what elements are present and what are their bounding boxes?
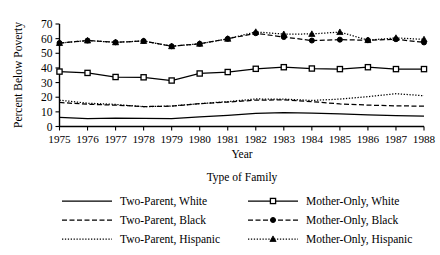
series-marker (365, 65, 370, 70)
data-series-group (56, 29, 427, 119)
y-tick-label: 70 (41, 18, 53, 30)
series-mother-only-white (57, 65, 427, 84)
legend-label: Two-Parent, Black (120, 214, 206, 227)
legend-entry-two-parent-hispanic[interactable]: Two-Parent, Hispanic (62, 233, 220, 246)
series-marker (197, 71, 202, 76)
y-tick-label: 40 (41, 62, 53, 74)
series-marker (57, 69, 62, 74)
y-tick-label: 20 (41, 91, 53, 103)
series-marker (337, 67, 342, 72)
chart-canvas: Percent Below Poverty 010203040506070 19… (0, 0, 440, 255)
x-tick-label: 1986 (357, 133, 380, 145)
series-marker (225, 69, 230, 74)
legend-label: Mother-Only, Hispanic (306, 233, 412, 246)
y-tick-label: 0 (47, 121, 53, 133)
series-marker (169, 78, 174, 83)
x-tick-label: 1977 (104, 133, 127, 145)
y-tick-label: 60 (41, 33, 53, 45)
legend-entry-two-parent-white[interactable]: Two-Parent, White (62, 195, 207, 208)
x-tick-label: 1979 (160, 133, 183, 145)
series-marker (141, 75, 146, 80)
x-tick-labels: 1975197619771978197919801981198219831984… (48, 133, 435, 145)
y-axis-title-text: Percent Below Poverty (12, 22, 25, 128)
legend-entry-mother-only-black[interactable]: Mother-Only, Black (248, 214, 399, 227)
series-marker (113, 74, 118, 79)
x-tick-label: 1981 (217, 133, 239, 145)
legend-marker-sample (271, 218, 276, 223)
series-marker (309, 66, 314, 71)
y-axis-title: Percent Below Poverty (12, 22, 25, 128)
x-tick-label: 1978 (132, 133, 155, 145)
legend-label: Mother-Only, White (306, 195, 399, 208)
y-tick-labels: 010203040506070 (41, 18, 53, 133)
x-tick-label: 1982 (245, 133, 267, 145)
x-tick-label: 1975 (48, 133, 71, 145)
x-tick-label: 1980 (189, 133, 212, 145)
x-tick-label: 1988 (413, 133, 436, 145)
legend: Two-Parent, WhiteMother-Only, WhiteTwo-P… (62, 195, 412, 246)
series-mother-only-hispanic (56, 29, 427, 49)
legend-entry-mother-only-white[interactable]: Mother-Only, White (248, 195, 399, 208)
series-marker (337, 37, 342, 42)
series-marker (281, 65, 286, 70)
legend-entry-mother-only-hispanic[interactable]: Mother-Only, Hispanic (248, 233, 412, 246)
x-axis-title: Year (231, 148, 252, 160)
series-mother-only-black (57, 31, 427, 49)
series-marker (253, 66, 258, 71)
y-tick-label: 50 (41, 47, 53, 59)
legend-entry-two-parent-black[interactable]: Two-Parent, Black (62, 214, 206, 227)
legend-label: Two-Parent, White (120, 195, 207, 208)
series-marker (421, 67, 426, 72)
poverty-line-chart-figure: Percent Below Poverty 010203040506070 19… (0, 0, 440, 255)
series-marker (85, 70, 90, 75)
x-tick-label: 1984 (301, 133, 324, 145)
y-tick-label: 10 (41, 106, 53, 118)
legend-marker-sample (270, 198, 275, 203)
x-tick-label: 1985 (329, 133, 352, 145)
series-marker (309, 38, 314, 43)
legend-label: Two-Parent, Hispanic (120, 233, 220, 246)
series-marker (337, 29, 343, 35)
x-tick-label: 1976 (76, 133, 99, 145)
legend-label: Mother-Only, Black (306, 214, 399, 227)
series-line (60, 113, 425, 119)
series-two-parent-white (60, 113, 425, 119)
y-axis: 010203040506070 (41, 18, 60, 133)
x-axis: 1975197619771978197919801981198219831984… (48, 127, 435, 145)
x-tick-label: 1987 (385, 133, 408, 145)
x-tick-label: 1983 (273, 133, 296, 145)
legend-title: Type of Family (207, 171, 278, 184)
series-marker (393, 67, 398, 72)
y-tick-label: 30 (41, 77, 53, 89)
